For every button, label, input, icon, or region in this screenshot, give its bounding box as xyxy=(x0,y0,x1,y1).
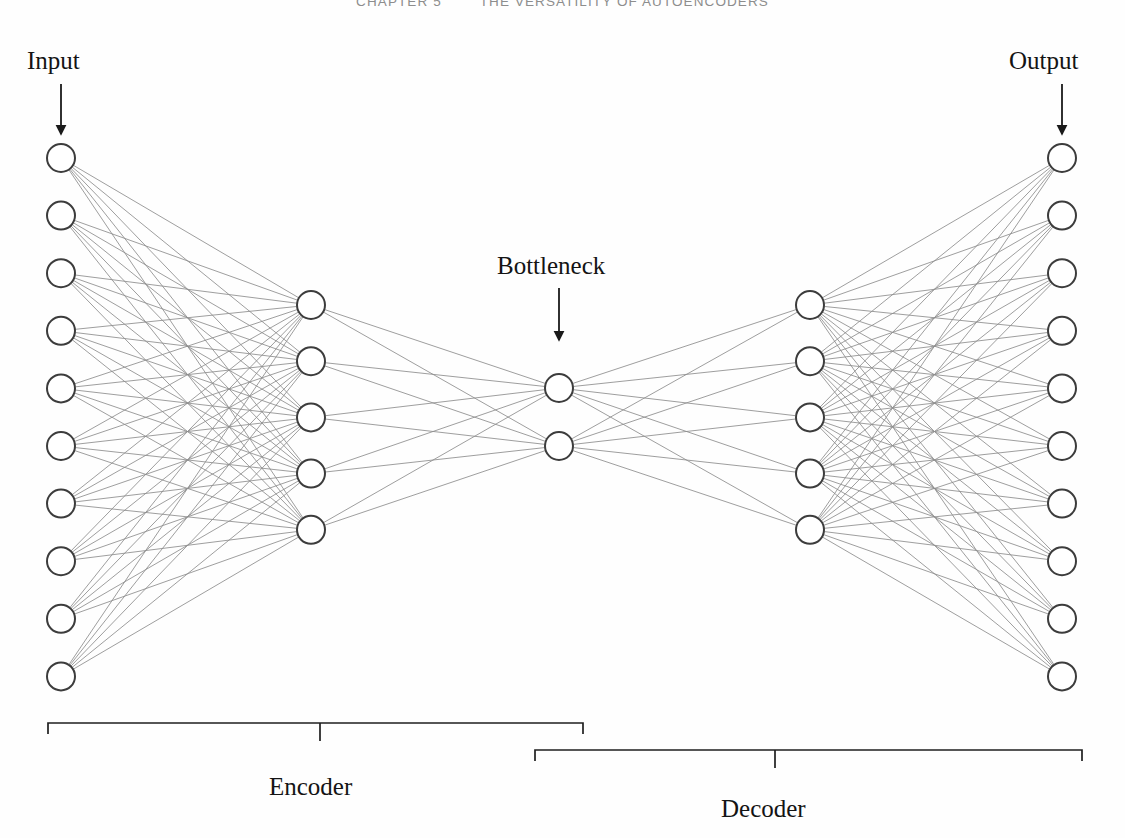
neuron-node xyxy=(1048,374,1076,402)
edge xyxy=(325,448,544,472)
edge xyxy=(821,426,1050,609)
neuron-node xyxy=(545,374,573,402)
edge xyxy=(820,284,1052,520)
arrow-group xyxy=(61,84,1062,340)
edge xyxy=(72,483,299,668)
edge xyxy=(70,373,302,665)
neuron-node xyxy=(47,662,75,690)
edge xyxy=(824,333,1047,360)
output-label: Output xyxy=(1009,47,1078,75)
neuron-node xyxy=(1048,432,1076,460)
decoder-brace xyxy=(535,750,1082,768)
autoencoder-diagram xyxy=(0,0,1125,838)
edge xyxy=(573,451,797,526)
edge xyxy=(74,368,299,496)
edge xyxy=(74,165,299,297)
neuron-node xyxy=(47,605,75,633)
neuron-node xyxy=(297,516,325,544)
neuron-node xyxy=(47,374,75,402)
neuron-node xyxy=(47,317,75,345)
edge xyxy=(819,316,1053,607)
neuron-node xyxy=(1048,259,1076,287)
edge xyxy=(75,306,296,329)
neuron-node xyxy=(1048,490,1076,518)
edge xyxy=(70,169,302,462)
edge xyxy=(71,284,301,520)
edge xyxy=(70,316,302,607)
neuron-node xyxy=(796,460,824,488)
edge xyxy=(71,226,301,463)
decoder-label: Decoder xyxy=(721,795,806,823)
edge xyxy=(820,372,1052,609)
edge xyxy=(824,390,1047,416)
brace-group xyxy=(48,723,1082,768)
edge xyxy=(75,505,296,528)
neuron-node xyxy=(297,403,325,431)
edge xyxy=(573,419,795,444)
edge xyxy=(75,532,296,560)
neuron-node xyxy=(47,547,75,575)
edge xyxy=(70,227,302,519)
edge xyxy=(824,306,1047,329)
edge xyxy=(821,167,1050,352)
edge xyxy=(75,275,296,303)
neuron-node xyxy=(47,259,75,287)
neuron-node xyxy=(796,516,824,544)
edge xyxy=(72,427,299,610)
neuron-node xyxy=(297,291,325,319)
edge xyxy=(823,425,1050,554)
neuron-node xyxy=(297,347,325,375)
edge xyxy=(72,167,300,352)
edge xyxy=(71,428,301,666)
edge xyxy=(823,537,1050,669)
edge xyxy=(823,368,1050,496)
edge xyxy=(819,227,1053,519)
edge xyxy=(75,390,296,416)
edge xyxy=(75,448,296,472)
encoder-label: Encoder xyxy=(269,773,352,801)
neuron-node xyxy=(1048,317,1076,345)
edge xyxy=(824,419,1047,444)
neuron-node xyxy=(796,347,824,375)
edge xyxy=(325,393,546,469)
edge xyxy=(325,390,544,416)
edge xyxy=(325,451,546,526)
edge xyxy=(75,363,296,387)
bottleneck-label: Bottleneck xyxy=(497,252,605,280)
edge xyxy=(573,310,796,384)
edge xyxy=(824,532,1047,560)
edge xyxy=(819,373,1053,666)
neuron-node xyxy=(1048,547,1076,575)
edge xyxy=(69,170,303,518)
edge xyxy=(823,338,1050,467)
edge xyxy=(824,475,1047,502)
edge xyxy=(75,333,296,360)
edge xyxy=(573,366,797,442)
edge xyxy=(818,317,1054,664)
neuron-node xyxy=(545,432,573,460)
edge xyxy=(72,225,299,409)
neuron-node xyxy=(47,202,75,230)
encoder-brace xyxy=(48,723,583,741)
edge xyxy=(325,366,546,441)
edge xyxy=(324,312,547,439)
edge xyxy=(821,225,1050,409)
edge xyxy=(573,393,797,469)
input-label: Input xyxy=(27,47,80,75)
edge xyxy=(573,363,795,387)
neuron-node xyxy=(1048,202,1076,230)
edge xyxy=(572,312,798,439)
neuron-node xyxy=(47,144,75,172)
neuron-node xyxy=(47,490,75,518)
edge xyxy=(74,537,299,669)
neuron-node xyxy=(796,291,824,319)
neuron-node xyxy=(1048,605,1076,633)
edge xyxy=(819,169,1053,462)
edge xyxy=(818,170,1054,518)
edge xyxy=(74,338,299,466)
edge xyxy=(75,475,296,502)
neuron-node xyxy=(796,403,824,431)
edge xyxy=(823,165,1050,297)
edge xyxy=(325,363,544,387)
edge xyxy=(824,363,1047,387)
